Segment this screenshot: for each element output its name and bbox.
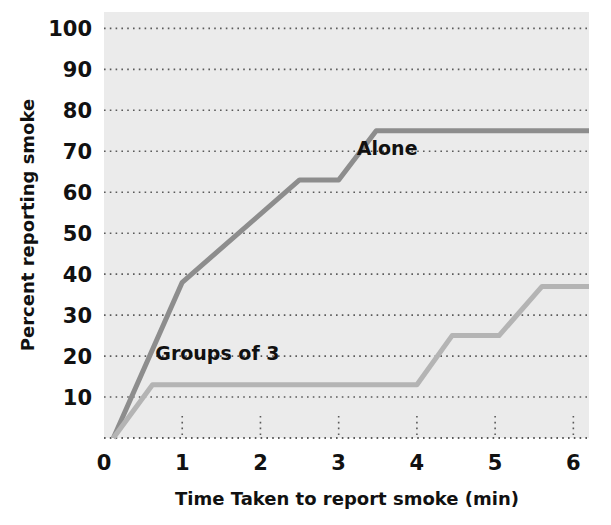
x-axis-tick-labels: 0123456 [97, 451, 581, 475]
y-tick-label-60: 60 [63, 181, 92, 205]
y-axis-title: Percent reporting smoke [17, 99, 38, 351]
y-tick-label-50: 50 [63, 222, 92, 246]
line-chart: 102030405060708090100 0123456 AloneGroup… [0, 0, 611, 525]
x-tick-label-6: 6 [566, 451, 581, 475]
series-label-0: Alone [357, 137, 418, 159]
y-tick-label-20: 20 [63, 345, 92, 369]
y-tick-label-90: 90 [63, 58, 92, 82]
y-axis-tick-labels: 102030405060708090100 [48, 17, 92, 410]
series-label-1: Groups of 3 [155, 342, 279, 364]
plot-background [104, 12, 589, 438]
y-tick-label-40: 40 [63, 263, 92, 287]
x-axis-title: Time Taken to report smoke (min) [175, 488, 519, 509]
y-tick-label-10: 10 [63, 386, 92, 410]
x-tick-label-2: 2 [253, 451, 268, 475]
y-tick-label-80: 80 [63, 99, 92, 123]
chart-container: 102030405060708090100 0123456 AloneGroup… [0, 0, 611, 525]
y-tick-label-100: 100 [48, 17, 92, 41]
x-tick-label-3: 3 [331, 451, 346, 475]
x-tick-label-0: 0 [97, 451, 112, 475]
x-tick-label-1: 1 [175, 451, 190, 475]
y-tick-label-30: 30 [63, 304, 92, 328]
x-tick-label-4: 4 [410, 451, 425, 475]
y-tick-label-70: 70 [63, 140, 92, 164]
x-tick-label-5: 5 [488, 451, 503, 475]
